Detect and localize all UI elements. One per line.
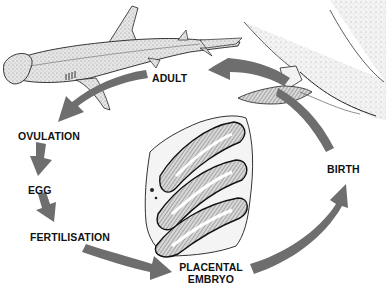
arrow-egg-to-fertilisation: [36, 192, 56, 222]
stage-label-fertilisation: FERTILISATION: [30, 231, 110, 243]
arrow-ovulation-to-egg: [30, 142, 52, 176]
stage-label-ovulation: OVULATION: [18, 130, 80, 142]
stage-label-placental-embryo: PLACENTAL EMBRYO: [176, 261, 246, 284]
arrow-embryo-to-birth: [250, 184, 348, 274]
arrow-right-curve: [276, 88, 334, 152]
stage-label-birth: BIRTH: [327, 163, 360, 175]
arrow-fertilisation-to-embryo: [82, 244, 172, 280]
shark-life-cycle-diagram: ADULT OVULATION EGG FERTILISATION PLACEN…: [0, 0, 386, 284]
arrow-adult-to-ovulation: [58, 70, 148, 122]
stage-label-embryo: EMBRYO: [176, 273, 246, 284]
arrow-birth-to-adult: [208, 58, 290, 86]
stage-label-egg: EGG: [28, 184, 52, 196]
stage-label-adult: ADULT: [152, 72, 187, 84]
stage-label-placental: PLACENTAL: [176, 261, 246, 273]
